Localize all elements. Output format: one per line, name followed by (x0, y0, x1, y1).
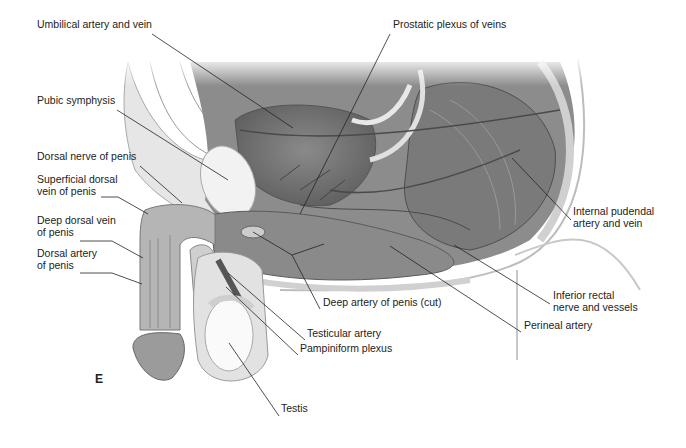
label-dorsal-artery: Dorsal artery of penis (37, 248, 97, 271)
anatomy-figure: Umbilical artery and veinProstatic plexu… (0, 0, 686, 448)
glans (133, 333, 184, 381)
label-perineal: Perineal artery (524, 320, 592, 332)
leader-line-superficial-dorsal-vein (101, 197, 148, 214)
label-testicular: Testicular artery (307, 328, 381, 340)
label-umbilical: Umbilical artery and vein (37, 19, 152, 31)
label-superficial-dorsal-vein: Superficial dorsal vein of penis (37, 174, 118, 197)
label-testis: Testis (281, 403, 308, 415)
label-pubic: Pubic symphysis (37, 95, 115, 107)
label-deep-dorsal-vein: Deep dorsal vein of penis (37, 215, 116, 238)
leader-line-inferior-rectal (454, 245, 550, 304)
label-dorsal-nerve: Dorsal nerve of penis (37, 151, 136, 163)
label-pampiniform: Pampiniform plexus (300, 343, 392, 355)
testis (205, 299, 253, 371)
label-inferior-rectal: Inferior rectal nerve and vessels (553, 290, 638, 313)
buttock-curve (515, 240, 640, 290)
leader-line-dorsal-artery (80, 273, 142, 284)
label-prostatic: Prostatic plexus of veins (393, 19, 506, 31)
label-internal-pudendal: Internal pudendal artery and vein (573, 206, 654, 229)
panel-letter: E (95, 372, 103, 386)
label-deep-artery: Deep artery of penis (cut) (323, 297, 441, 309)
